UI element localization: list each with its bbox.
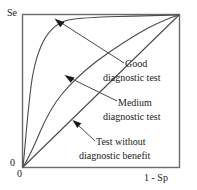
- annotation-medium-line1: Medium: [118, 98, 152, 108]
- leader-line-no-benefit: [77, 124, 95, 141]
- annotation-medium-line2: diagnostic test: [103, 112, 161, 122]
- annotation-no-benefit-line1: Test without: [96, 137, 146, 147]
- x-axis-label: 1 - Sp: [144, 173, 168, 183]
- roc-plot-canvas: [0, 0, 197, 190]
- annotation-no-benefit-line2: diagnostic benefit: [79, 151, 150, 161]
- leader-line-good: [60, 22, 124, 63]
- y-axis-origin-tick: 0: [10, 158, 15, 168]
- x-axis-origin-tick: 0: [17, 169, 22, 179]
- annotation-good-line2: diagnostic test: [103, 73, 161, 83]
- roc-curve-figure: Se 1 - Sp 0 0 Good diagnostic test Mediu…: [0, 0, 197, 190]
- annotation-good-line1: Good: [125, 59, 147, 69]
- y-axis-label: Se: [7, 8, 17, 18]
